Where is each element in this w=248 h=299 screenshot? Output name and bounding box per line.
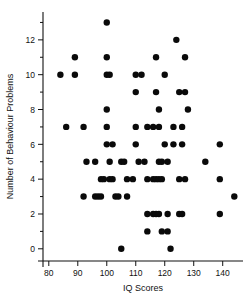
data-point: [176, 89, 182, 95]
y-tick-label: 10: [26, 70, 36, 80]
data-point: [104, 19, 110, 25]
data-point: [104, 124, 110, 130]
data-point: [202, 159, 208, 165]
data-point: [153, 54, 159, 60]
x-tick-label: 120: [158, 268, 172, 278]
data-point: [133, 141, 139, 147]
data-point: [179, 211, 185, 217]
data-point: [156, 211, 162, 217]
data-point: [176, 176, 182, 182]
data-point: [164, 159, 170, 165]
data-point: [156, 106, 162, 112]
data-point: [159, 159, 165, 165]
y-tick-label: 2: [30, 209, 35, 219]
data-point: [57, 71, 63, 77]
y-tick-label: 8: [30, 105, 35, 115]
data-point: [141, 159, 147, 165]
data-point: [92, 159, 98, 165]
data-point: [170, 124, 176, 130]
data-point: [104, 106, 110, 112]
data-point: [72, 71, 78, 77]
y-tick-label: 4: [30, 174, 35, 184]
data-point: [106, 71, 112, 77]
x-tick-label: 140: [216, 268, 230, 278]
data-point: [144, 124, 150, 130]
data-point-group: [57, 19, 237, 252]
data-point: [80, 193, 86, 199]
data-point: [182, 176, 188, 182]
data-point: [109, 141, 115, 147]
data-point: [159, 176, 165, 182]
data-point: [106, 159, 112, 165]
y-tick-label: 0: [30, 244, 35, 254]
x-tick-label: 100: [100, 268, 114, 278]
data-point: [182, 54, 188, 60]
data-point: [150, 124, 156, 130]
data-point: [217, 141, 223, 147]
data-point: [153, 89, 159, 95]
data-point: [109, 176, 115, 182]
data-point: [101, 176, 107, 182]
data-point: [63, 124, 69, 130]
data-point: [217, 211, 223, 217]
data-point: [170, 141, 176, 147]
data-point: [159, 228, 165, 234]
data-point: [164, 228, 170, 234]
data-point: [179, 124, 185, 130]
data-point: [156, 124, 162, 130]
data-point: [133, 124, 139, 130]
y-axis-label: Number of Behaviour Problems: [5, 73, 15, 199]
data-point: [98, 193, 104, 199]
data-point: [164, 211, 170, 217]
data-point: [104, 54, 110, 60]
x-axis-label: IQ Scores: [123, 283, 164, 293]
data-point: [124, 193, 130, 199]
y-tick-label: 12: [26, 35, 36, 45]
plot-canvas: 8090100110120130140024681012IQ ScoresNum…: [0, 0, 248, 299]
data-point: [167, 246, 173, 252]
data-point: [185, 106, 191, 112]
data-point: [162, 141, 168, 147]
data-point: [144, 211, 150, 217]
data-point: [115, 193, 121, 199]
data-point: [162, 71, 168, 77]
data-point: [182, 89, 188, 95]
data-point: [121, 159, 127, 165]
data-point: [72, 54, 78, 60]
data-point: [138, 71, 144, 77]
data-point: [217, 176, 223, 182]
data-point: [179, 141, 185, 147]
data-point: [130, 176, 136, 182]
x-tick-label: 80: [44, 268, 54, 278]
data-point: [83, 159, 89, 165]
x-tick-label: 130: [187, 268, 201, 278]
data-point: [124, 176, 130, 182]
x-tick-label: 90: [73, 268, 83, 278]
data-point: [231, 193, 237, 199]
data-point: [133, 71, 139, 77]
x-tick-label: 110: [129, 268, 143, 278]
data-point: [133, 89, 139, 95]
data-point: [144, 176, 150, 182]
data-point: [80, 124, 86, 130]
data-point: [135, 159, 141, 165]
y-tick-label: 6: [30, 140, 35, 150]
data-point: [173, 37, 179, 43]
scatter-plot-figure: 8090100110120130140024681012IQ ScoresNum…: [0, 0, 248, 299]
data-point: [104, 141, 110, 147]
data-point: [144, 228, 150, 234]
data-point: [118, 246, 124, 252]
